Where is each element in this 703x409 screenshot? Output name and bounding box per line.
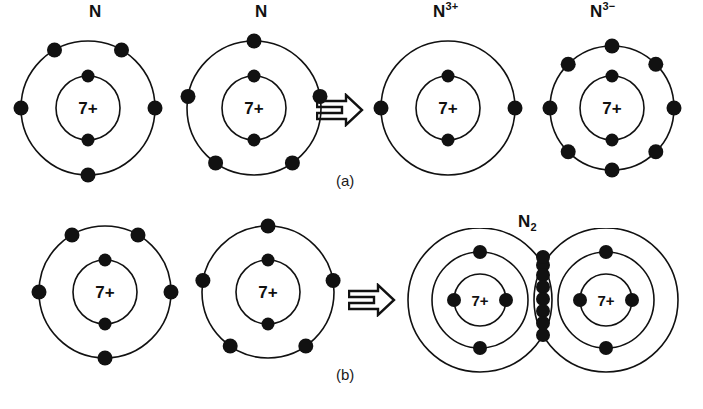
electron-shared (536, 280, 550, 294)
electron (131, 228, 146, 243)
nucleus-charge-label: 7+ (95, 283, 114, 302)
electron (248, 70, 261, 83)
electron (606, 134, 619, 147)
electron (247, 34, 262, 49)
double-arrow-right-icon-a (316, 93, 364, 127)
electron (573, 293, 587, 307)
electron (47, 43, 62, 58)
electron (442, 134, 455, 147)
electron (648, 144, 663, 159)
nucleus-charge-label: 7+ (258, 283, 277, 302)
electron (99, 254, 112, 267)
arrow-outline (317, 95, 362, 125)
electron (65, 228, 80, 243)
electron-shared-junction-bottom (536, 328, 550, 342)
nitrogen-atom-3: 7+ (25, 212, 185, 372)
electron (442, 70, 455, 83)
electron (605, 39, 620, 54)
nitrogen-atom-4: 7+ (188, 212, 348, 372)
electron (148, 101, 163, 116)
label-nitrogen-atom-2: N (255, 2, 267, 22)
electron (261, 219, 276, 234)
electron (599, 245, 613, 259)
panel-b: 7+ 7+ (0, 200, 703, 409)
electron (326, 273, 341, 288)
label-nitrogen-cation: N3+ (433, 2, 458, 22)
left-nucleus-charge-label: 7+ (471, 292, 488, 309)
nucleus-charge-label: 7+ (244, 99, 263, 118)
electron (195, 273, 210, 288)
electron (599, 341, 613, 355)
electron (32, 285, 47, 300)
electron (181, 89, 196, 104)
electron (208, 155, 223, 170)
electron (285, 155, 300, 170)
panel-a-caption: (a) (336, 172, 354, 189)
electron (447, 293, 461, 307)
electron (605, 163, 620, 178)
nitrogen-cation: 7+ (368, 28, 528, 188)
nitrogen-atom-2: 7+ (174, 28, 334, 188)
electron (667, 101, 682, 116)
electron (82, 70, 95, 83)
label-nitrogen-atom-1: N (89, 2, 101, 22)
electron (14, 101, 29, 116)
electron (223, 339, 238, 354)
electron (248, 134, 261, 147)
electron-shell-diagram: N 7+ N (0, 0, 703, 409)
electron (543, 101, 558, 116)
electron (625, 293, 639, 307)
electron-shared (536, 268, 550, 282)
electron (499, 293, 513, 307)
electron (473, 341, 487, 355)
electron (99, 318, 112, 331)
panel-a: N 7+ N (0, 0, 703, 205)
double-arrow-right-icon-b (348, 283, 396, 317)
electron (561, 57, 576, 72)
electron (606, 70, 619, 83)
electron-shared (536, 304, 550, 318)
electron (164, 285, 179, 300)
electron (114, 43, 129, 58)
nitrogen-atom-1: 7+ (8, 28, 168, 188)
nitrogen-molecule: 7+ 7+ (398, 228, 688, 378)
electron-shared (536, 292, 550, 306)
electron (508, 101, 523, 116)
electron (82, 134, 95, 147)
electron (262, 318, 275, 331)
electron (98, 351, 113, 366)
electron (648, 57, 663, 72)
electron (262, 254, 275, 267)
electron (81, 168, 96, 183)
arrow-outline (349, 285, 394, 315)
electron (298, 339, 313, 354)
electron-shared (536, 316, 550, 330)
label-nitrogen-anion: N3− (590, 2, 615, 22)
nitrogen-anion: 7+ (537, 33, 687, 183)
electron-shared (536, 250, 550, 264)
nucleus-charge-label: 7+ (602, 99, 621, 118)
right-nucleus-charge-label: 7+ (597, 292, 614, 309)
electron (473, 245, 487, 259)
nucleus-charge-label: 7+ (438, 99, 457, 118)
electron (374, 101, 389, 116)
panel-b-caption: (b) (336, 366, 354, 383)
nucleus-charge-label: 7+ (78, 99, 97, 118)
electron (561, 144, 576, 159)
